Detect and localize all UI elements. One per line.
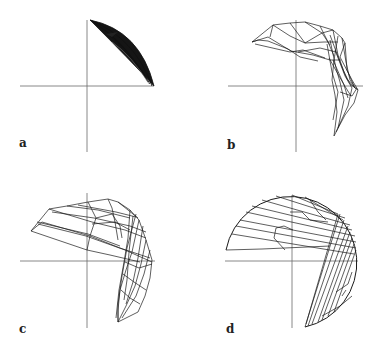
panel-b [228,20,363,152]
panel-b-wireframe [252,22,358,136]
figure-canvas [0,0,383,359]
panel-c-label: c [19,323,26,335]
panel-d-label: d [226,323,234,335]
panel-d [225,195,358,328]
panel-a-curves [90,20,154,86]
panel-b-label: b [227,139,235,151]
panel-c [20,193,155,328]
panel-c-wireframe [31,199,152,322]
panel-a-label: a [19,137,27,149]
panel-a [20,20,154,152]
